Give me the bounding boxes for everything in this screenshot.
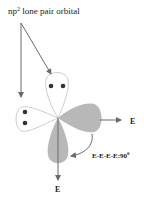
bottom-e-label: E [55,185,60,194]
angle-arrow [71,134,92,156]
angle-label: E-E-E-E:900 [92,151,130,160]
orbital-diagram: np2 lone pair orbital E E E-E-E-E:900 [0,0,147,198]
electron-dot [23,121,28,126]
lone-pair-lobe-left [16,107,58,132]
right-e-label: E [130,117,135,126]
pointer-arrow-top [21,23,51,74]
lone-pair-lobe-top [46,73,69,119]
electron-dot [61,84,66,89]
electron-dot [49,84,54,89]
title-label: np2 lone pair orbital [8,6,80,16]
bonding-lobe-right [58,104,102,133]
electron-dot [23,110,28,115]
